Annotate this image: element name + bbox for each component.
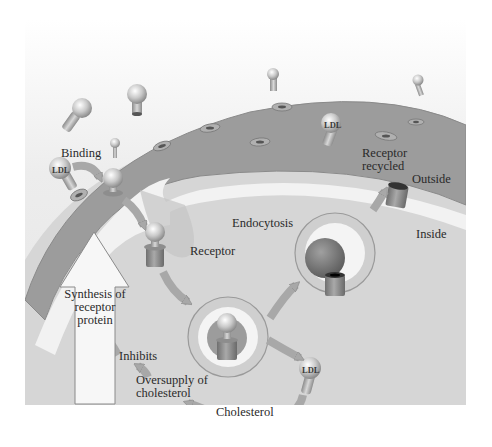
label-oversupply: Oversupply of cholesterol <box>136 374 208 400</box>
label-outside: Outside <box>412 173 451 186</box>
label-inhibits: Inhibits <box>119 350 157 363</box>
recycled-receptor <box>385 181 409 209</box>
label-receptor-recycled: Receptor recycled <box>362 147 407 173</box>
label-inside: Inside <box>416 228 447 241</box>
label-ldl-membrane: LDL <box>324 119 341 132</box>
receptor-ldl-bound <box>103 168 123 197</box>
endocytic-vesicle <box>188 297 268 377</box>
label-receptor: Receptor <box>190 245 235 258</box>
label-ldl-released: LDL <box>302 364 319 377</box>
label-binding: Binding <box>61 147 101 160</box>
label-synthesis-line3: protein <box>62 314 128 327</box>
label-endocytosis: Endocytosis <box>232 217 293 230</box>
label-cholesterol: Cholesterol <box>216 406 274 419</box>
label-ldl-binding: LDL <box>52 164 69 177</box>
label-synthesis: Synthesis of receptor protein <box>62 288 128 327</box>
label-receptor-recycled-line2: recycled <box>362 160 407 173</box>
label-oversupply-line2: cholesterol <box>136 387 208 400</box>
